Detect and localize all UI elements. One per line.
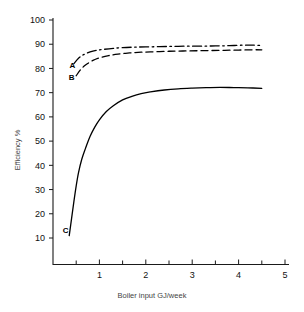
- curve-b: [76, 50, 262, 76]
- y-tick-label: 50: [35, 136, 45, 146]
- x-tick-label: 1: [97, 270, 102, 280]
- y-tick-label: 80: [35, 64, 45, 74]
- x-tick-label: 5: [282, 270, 287, 280]
- y-tick-label: 100: [30, 15, 45, 25]
- y-axis-ticks: [49, 20, 53, 238]
- data-curves: [69, 45, 262, 235]
- efficiency-chart: 102030405060708090100 12345 ABC Boiler i…: [0, 0, 304, 312]
- curve-a: [74, 45, 262, 63]
- curve-label-b: B: [69, 73, 75, 82]
- y-tick-label: 10: [35, 233, 45, 243]
- curve-label-c: C: [63, 226, 69, 235]
- x-tick-label: 3: [190, 270, 195, 280]
- y-tick-label: 70: [35, 88, 45, 98]
- x-axis-ticks: [76, 260, 285, 265]
- y-tick-label: 20: [35, 209, 45, 219]
- y-tick-label: 40: [35, 161, 45, 171]
- chart-svg: 102030405060708090100 12345 ABC Boiler i…: [0, 0, 304, 312]
- y-tick-label: 30: [35, 185, 45, 195]
- y-tick-label: 60: [35, 112, 45, 122]
- y-tick-label: 90: [35, 39, 45, 49]
- x-axis-title: Boiler input GJ/week: [118, 291, 187, 300]
- x-axis-tick-labels: 12345: [97, 270, 288, 280]
- curve-c: [69, 87, 262, 235]
- x-tick-label: 4: [236, 270, 241, 280]
- curve-labels: ABC: [63, 61, 76, 235]
- curve-label-a: A: [70, 61, 76, 70]
- x-tick-label: 2: [143, 270, 148, 280]
- y-axis-title: Efficiency %: [13, 129, 22, 170]
- y-axis-tick-labels: 102030405060708090100: [30, 15, 45, 243]
